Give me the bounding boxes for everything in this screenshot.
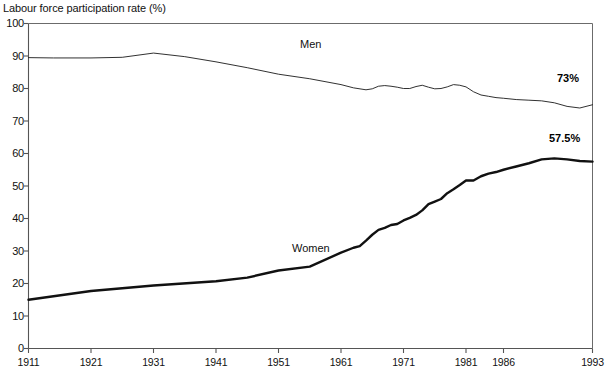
data-series — [29, 53, 593, 300]
series-line-women — [29, 158, 593, 299]
x-tick-label: 1971 — [380, 357, 428, 368]
x-tick-label: 1951 — [255, 357, 303, 368]
y-tick-label: 40 — [0, 213, 24, 224]
y-tick-label: 70 — [0, 116, 24, 127]
y-tick-label: 90 — [0, 51, 24, 62]
y-tick-label: 50 — [0, 181, 24, 192]
value-label-women: 57.5% — [549, 132, 580, 144]
x-tick-label: 1911 — [5, 357, 53, 368]
value-label-men: 73% — [557, 72, 579, 84]
chart-figure: Labour force participation rate (%) 0102… — [0, 0, 608, 382]
y-tick-label: 100 — [0, 18, 24, 29]
y-tick-label: 80 — [0, 83, 24, 94]
x-tick-label: 1931 — [130, 357, 178, 368]
y-tick-label: 20 — [0, 278, 24, 289]
axes — [24, 24, 593, 354]
y-tick-label: 0 — [0, 343, 24, 354]
y-tick-label: 30 — [0, 246, 24, 257]
y-tick-label: 10 — [0, 311, 24, 322]
x-tick-label: 1941 — [192, 357, 240, 368]
x-tick-label: 1961 — [317, 357, 365, 368]
plot-area — [0, 0, 608, 382]
y-tick-label: 60 — [0, 148, 24, 159]
x-tick-label: 1921 — [67, 357, 115, 368]
series-line-men — [29, 53, 593, 108]
series-label-women: Women — [292, 242, 330, 254]
x-tick-label: 1993 — [569, 357, 608, 368]
series-label-men: Men — [300, 38, 321, 50]
x-tick-label: 1986 — [480, 357, 528, 368]
